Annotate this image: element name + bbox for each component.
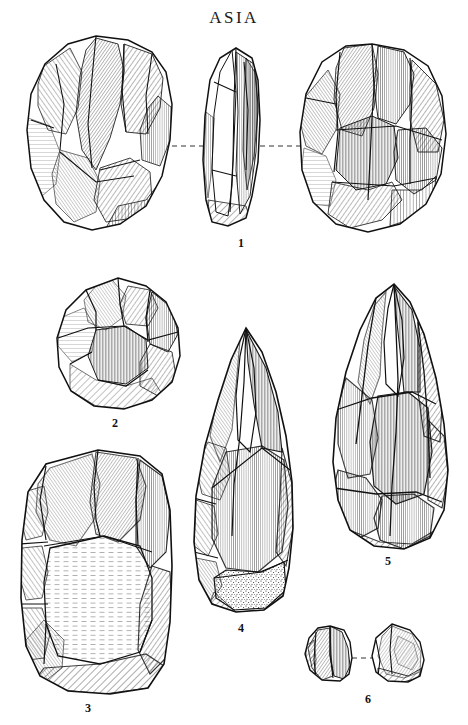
figure-label-1: 1 bbox=[231, 236, 251, 251]
figure-label-2: 2 bbox=[105, 416, 125, 431]
lithic-plate: ASIA bbox=[0, 0, 468, 725]
figure-label-4: 4 bbox=[231, 621, 251, 636]
figure-label-5: 5 bbox=[378, 554, 398, 569]
figure-label-3: 3 bbox=[78, 701, 98, 716]
figure-label-6: 6 bbox=[358, 692, 378, 707]
page-title: ASIA bbox=[0, 8, 468, 28]
figure-1-handaxe bbox=[24, 36, 446, 232]
plate-illustration bbox=[0, 0, 468, 725]
figure-3-large-core-flake bbox=[19, 450, 172, 694]
figure-1-view-profile bbox=[203, 48, 260, 227]
figure-1-view-dorsal bbox=[300, 44, 446, 232]
